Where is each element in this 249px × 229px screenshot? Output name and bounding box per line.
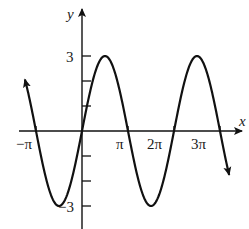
sine-graph: y x 3 −3 −π π 2π 3π: [0, 0, 249, 229]
x-tick-label-pi: π: [116, 136, 124, 152]
x-axis-label: x: [238, 113, 246, 129]
x-tick-label-neg-pi: −π: [16, 136, 32, 152]
y-tick-label-3: 3: [66, 49, 74, 65]
y-tick-label-neg3: −3: [58, 199, 74, 215]
y-axis-label: y: [65, 6, 74, 22]
x-tick-label-2pi: 2π: [147, 136, 163, 152]
x-tick-label-3pi: 3π: [191, 136, 207, 152]
